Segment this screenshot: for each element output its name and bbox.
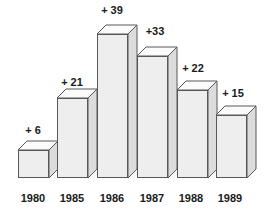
category-label: 1989 bbox=[205, 192, 255, 204]
bar-group bbox=[216, 115, 247, 178]
value-label: + 22 bbox=[168, 62, 218, 74]
bar-front-face bbox=[57, 98, 88, 178]
bar-front-face bbox=[137, 56, 168, 178]
plot-area: + 6 1980 + 21 1985 bbox=[0, 0, 274, 213]
bar-group bbox=[97, 34, 128, 178]
bar-group bbox=[177, 90, 208, 178]
value-label: +33 bbox=[130, 25, 180, 37]
bar-front-face bbox=[177, 90, 208, 178]
bar-front-face bbox=[97, 34, 128, 178]
value-label: + 6 bbox=[8, 124, 58, 136]
value-label: + 21 bbox=[47, 76, 97, 88]
bar-group bbox=[57, 98, 88, 178]
bar-group bbox=[137, 56, 168, 178]
value-label: + 15 bbox=[208, 87, 258, 99]
bar-front-face bbox=[18, 150, 49, 178]
bar-front-face bbox=[216, 115, 247, 178]
bar-chart: + 6 1980 + 21 1985 bbox=[0, 0, 274, 213]
value-label: + 39 bbox=[87, 4, 137, 16]
bar-group bbox=[18, 150, 49, 178]
